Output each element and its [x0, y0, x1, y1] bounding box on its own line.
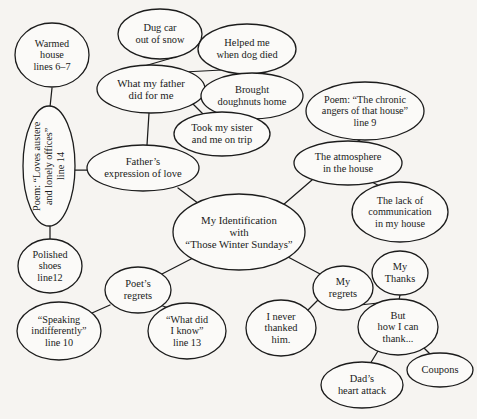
node-ellipse-dads_heart[interactable] [321, 362, 403, 408]
node-ellipse-i_never_thanked[interactable] [246, 300, 316, 356]
node-ellipse-warmed_house[interactable] [15, 23, 89, 87]
node-ellipse-my_thanks[interactable] [372, 251, 428, 295]
edge-what_father_did-to-fathers_expr [147, 113, 149, 145]
node-ellipse-center[interactable] [173, 194, 305, 270]
node-ellipse-atmosphere[interactable] [294, 141, 402, 185]
concept-map-canvas: Warmed house lines 6–7Poem: “Loves auste… [0, 0, 477, 419]
node-ellipse-lack_comm[interactable] [352, 182, 448, 242]
node-ellipse-took_sister[interactable] [174, 112, 270, 156]
node-ellipse-poets_regrets[interactable] [105, 267, 171, 313]
edge-center-to-my_regrets [288, 257, 322, 275]
concept-map-graphics [0, 0, 477, 419]
node-ellipse-what_did_i_know[interactable] [148, 303, 226, 359]
node-ellipse-fathers_expr[interactable] [87, 145, 199, 191]
edge-atmosphere-to-center [283, 180, 312, 205]
node-ellipse-but_how_thank[interactable] [358, 299, 438, 355]
node-ellipse-poem_austere[interactable] [23, 106, 75, 226]
node-ellipse-what_father_did[interactable] [97, 65, 205, 113]
edge-poets_regrets-to-speaking_indiff [92, 305, 110, 313]
node-ellipse-helped_dog[interactable] [198, 24, 296, 74]
node-ellipse-poem_chronic[interactable] [306, 82, 424, 140]
node-ellipse-speaking_indiff[interactable] [17, 302, 101, 360]
edge-my_regrets-to-i_never_thanked [308, 300, 318, 310]
node-ellipse-dug_car[interactable] [118, 9, 202, 59]
edge-center-to-poets_regrets [160, 258, 193, 275]
node-ellipse-my_regrets[interactable] [313, 266, 373, 310]
node-ellipse-coupons[interactable] [407, 353, 473, 387]
edge-warmed_house-to-poem_austere [50, 88, 52, 107]
node-ellipse-polished_shoes[interactable] [18, 239, 82, 293]
